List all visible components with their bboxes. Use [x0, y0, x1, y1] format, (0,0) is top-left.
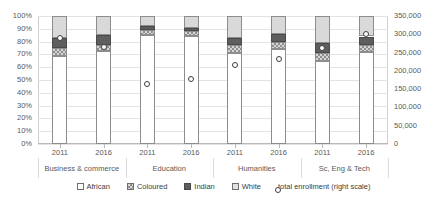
legend-label: total enrollment (right scale) [278, 182, 371, 191]
bar-segment-african [140, 35, 155, 144]
x-axis-year-label: 2016 [95, 148, 112, 157]
legend-item-white[interactable]: White [232, 182, 261, 191]
category-separator [301, 158, 302, 178]
category-separator [213, 158, 214, 178]
y-axis-left-tick: 30% [17, 102, 32, 110]
y-axis-right-tick: 100,000 [394, 104, 421, 112]
category-separator [388, 158, 389, 178]
gridline [38, 93, 388, 94]
x-axis-group-label: Business & commerce [44, 164, 119, 173]
total-enrollment-marker[interactable] [57, 35, 63, 41]
bar-segment-white [271, 16, 286, 34]
gridline [38, 118, 388, 119]
bar-segment-coloured [52, 48, 67, 56]
x-axis-year-label: 2011 [227, 148, 243, 157]
category-separator [38, 158, 39, 178]
legend-item-marker[interactable]: total enrollment (right scale) [278, 182, 371, 191]
bar-segment-coloured [271, 42, 286, 50]
legend-label: Coloured [137, 182, 167, 191]
legend-swatch-white-icon [232, 183, 239, 190]
plot-area [38, 16, 388, 144]
y-axis-right-tick: 300,000 [394, 31, 421, 39]
bar-segment-african [315, 61, 330, 144]
x-axis-year-label: 2016 [270, 148, 287, 157]
y-axis-left-tick: 80% [17, 38, 32, 46]
bar-segment-white [184, 16, 199, 28]
y-axis-right-tick: 350,000 [394, 12, 421, 20]
gridline [38, 42, 388, 43]
x-axis-year-label: 2016 [183, 148, 200, 157]
legend-swatch-coloured-icon [127, 183, 134, 190]
gridline [38, 54, 388, 55]
gridline [38, 144, 388, 145]
y-axis-left-tick: 20% [17, 115, 32, 123]
y-axis-left: 0%10%20%30%40%50%60%70%80%90%100% [0, 10, 36, 146]
bar-segment-african [96, 51, 111, 144]
bar-segment-coloured [359, 45, 374, 51]
gridline [38, 67, 388, 68]
y-axis-left-tick: 10% [17, 127, 32, 135]
category-separator [126, 158, 127, 178]
total-enrollment-marker[interactable] [319, 45, 325, 51]
bar-segment-coloured [315, 53, 330, 61]
x-axis-year-label: 2011 [314, 148, 330, 157]
bar-segment-african [359, 52, 374, 144]
bar-segment-indian [140, 26, 155, 30]
total-enrollment-marker[interactable] [363, 31, 369, 37]
legend-label: African [87, 182, 110, 191]
x-axis-year-label: 2011 [139, 148, 155, 157]
bar-segment-indian [227, 38, 242, 46]
legend-label: Indian [194, 182, 214, 191]
total-enrollment-marker[interactable] [276, 56, 282, 62]
bar-segment-white [227, 16, 242, 38]
y-axis-right: 050,000100,000150,000200,000250,000300,0… [390, 10, 447, 146]
y-axis-left-tick: 60% [17, 63, 32, 71]
y-axis-left-tick: 40% [17, 89, 32, 97]
y-axis-left-tick: 100% [13, 12, 32, 20]
x-axis-year-label: 2016 [358, 148, 375, 157]
total-enrollment-marker[interactable] [144, 81, 150, 87]
gridline [38, 80, 388, 81]
legend-item-african[interactable]: African [77, 182, 110, 191]
x-axis-group-label: Education [153, 164, 186, 173]
bar-segment-african [271, 49, 286, 144]
total-enrollment-marker[interactable] [101, 44, 107, 50]
legend-swatch-african-icon [77, 183, 84, 190]
x-axis-group-label: Humanities [238, 164, 276, 173]
bar-segment-coloured [227, 45, 242, 53]
bar-segment-indian [271, 34, 286, 42]
x-axis-year-label: 2011 [52, 148, 68, 157]
legend-label: White [242, 182, 261, 191]
y-axis-left-tick: 70% [17, 51, 32, 59]
gridline [38, 106, 388, 107]
y-axis-right-tick: 200,000 [394, 67, 421, 75]
y-axis-right-tick: 150,000 [394, 85, 421, 93]
bar-segment-indian [184, 28, 199, 32]
bar-segment-white [140, 16, 155, 26]
y-axis-left-tick: 50% [17, 76, 32, 84]
bar-segment-indian [359, 37, 374, 46]
total-enrollment-marker[interactable] [188, 76, 194, 82]
total-enrollment-marker[interactable] [232, 62, 238, 68]
gridline [38, 29, 388, 30]
bar-segment-coloured [140, 30, 155, 35]
legend-swatch-indian-icon [184, 183, 191, 190]
y-axis-right-tick: 50,000 [394, 122, 417, 130]
gridline [38, 131, 388, 132]
x-axis-group-label: Sc, Eng & Tech [319, 164, 370, 173]
y-axis-right-tick: 250,000 [394, 49, 421, 57]
bar-segment-white [315, 16, 330, 43]
y-axis-left-tick: 0% [21, 140, 32, 148]
stacked-bar-chart: 0%10%20%30%40%50%60%70%80%90%100% 050,00… [0, 0, 447, 207]
bar-segment-coloured [184, 31, 199, 36]
gridline [38, 16, 388, 17]
legend-item-indian[interactable]: Indian [184, 182, 214, 191]
legend-swatch-marker-icon [275, 187, 281, 193]
chart-legend: AfricanColouredIndianWhitetotal enrollme… [0, 182, 447, 191]
bar-segment-african [184, 36, 199, 144]
bar-segment-white [96, 16, 111, 35]
bar-segment-african [52, 56, 67, 144]
y-axis-right-tick: 0 [394, 140, 398, 148]
y-axis-left-tick: 90% [17, 25, 32, 33]
legend-item-coloured[interactable]: Coloured [127, 182, 167, 191]
